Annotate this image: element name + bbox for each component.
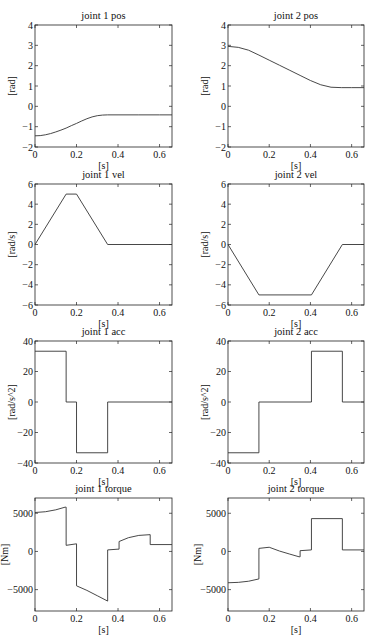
- subplot-j1acc: 00.20.40.6−40−2002040joint 1 acc[s][rad/…: [6, 326, 172, 487]
- data-line: [228, 245, 364, 295]
- data-line: [228, 46, 364, 87]
- y-tick-label: 4: [28, 199, 33, 210]
- y-tick-label: 5000: [206, 508, 226, 519]
- subplot-j1vel: 00.20.40.6−6−4−20246joint 1 vel[s][rad/s…: [6, 169, 172, 329]
- subplot-j1pos: 00.20.40.6−2−101234joint 1 pos[s][rad]: [6, 10, 172, 171]
- subplot-title: joint 1 pos: [80, 10, 125, 21]
- y-tick-label: −2: [22, 259, 33, 270]
- y-tick-label: 20: [216, 366, 226, 377]
- y-tick-label: 2: [28, 60, 33, 71]
- data-line: [35, 351, 172, 453]
- subplot-title: joint 2 torque: [267, 483, 325, 494]
- y-tick-label: 4: [221, 199, 226, 210]
- x-tick-label: 0: [33, 465, 38, 476]
- x-tick-label: 0.6: [345, 613, 358, 624]
- x-tick-label: 0.2: [263, 149, 276, 160]
- y-tick-label: 2: [221, 219, 226, 230]
- y-tick-label: −20: [210, 427, 226, 438]
- x-tick-label: 0.4: [112, 613, 125, 624]
- y-tick-label: 4: [28, 20, 33, 31]
- y-axis-label: [rad/s]: [6, 231, 17, 257]
- x-tick-label: 0: [226, 613, 231, 624]
- y-tick-label: −6: [22, 300, 33, 311]
- y-tick-label: 0: [28, 239, 33, 250]
- y-tick-label: 0: [28, 546, 33, 557]
- y-tick-label: −1: [215, 121, 226, 132]
- y-tick-label: −1: [22, 121, 33, 132]
- x-tick-label: 0.4: [304, 613, 317, 624]
- y-tick-label: −5000: [200, 584, 226, 595]
- x-tick-label: 0.2: [70, 465, 83, 476]
- axes-box: [35, 25, 172, 147]
- y-tick-label: 4: [221, 20, 226, 31]
- x-tick-label: 0.4: [112, 149, 125, 160]
- y-tick-label: 0: [221, 101, 226, 112]
- y-tick-label: −4: [215, 279, 226, 290]
- subplot-j2pos: 00.20.40.6−2−101234joint 2 pos[s][rad]: [199, 10, 364, 171]
- x-tick-label: 0.6: [345, 307, 358, 318]
- y-tick-label: 0: [28, 101, 33, 112]
- y-tick-label: 3: [221, 40, 226, 51]
- y-tick-label: −2: [215, 142, 226, 153]
- subplot-j2torque: 00.20.40.6−500005000joint 2 torque[s][Nm…: [192, 483, 364, 635]
- data-line: [35, 115, 172, 136]
- y-tick-label: 40: [23, 336, 33, 347]
- y-axis-label: [rad/s^2]: [199, 384, 210, 420]
- y-tick-label: −40: [17, 458, 33, 469]
- data-line: [228, 351, 364, 453]
- y-tick-label: 5000: [13, 508, 33, 519]
- x-tick-label: 0: [226, 465, 231, 476]
- y-tick-label: 1: [28, 81, 33, 92]
- subplot-title: joint 2 pos: [273, 10, 318, 21]
- y-tick-label: −40: [210, 458, 226, 469]
- x-tick-label: 0.4: [304, 307, 317, 318]
- x-tick-label: 0.4: [304, 149, 317, 160]
- axes-box: [228, 25, 364, 147]
- subplot-title: joint 1 vel: [81, 169, 125, 180]
- y-axis-label: [rad/s]: [199, 231, 210, 257]
- y-tick-label: −5000: [7, 584, 33, 595]
- y-tick-label: 6: [221, 179, 226, 190]
- x-tick-label: 0: [226, 149, 231, 160]
- y-axis-label: [rad]: [6, 76, 17, 95]
- x-tick-label: 0: [33, 307, 38, 318]
- y-tick-label: −20: [17, 427, 33, 438]
- y-tick-label: 2: [221, 60, 226, 71]
- y-tick-label: 1: [221, 81, 226, 92]
- x-tick-label: 0: [226, 307, 231, 318]
- x-tick-label: 0.4: [112, 465, 125, 476]
- x-axis-label: [s]: [98, 624, 109, 635]
- x-tick-label: 0.2: [263, 613, 276, 624]
- y-tick-label: 3: [28, 40, 33, 51]
- subplot-j1torque: 00.20.40.6−500005000joint 1 torque[s][Nm…: [0, 483, 172, 635]
- x-tick-label: 0.6: [153, 613, 166, 624]
- y-tick-label: 2: [28, 219, 33, 230]
- x-tick-label: 0.2: [263, 307, 276, 318]
- subplot-title: joint 2 acc: [273, 326, 318, 337]
- y-axis-label: [Nm]: [0, 544, 10, 566]
- data-line: [35, 507, 172, 601]
- y-tick-label: 0: [221, 397, 226, 408]
- y-tick-label: −2: [22, 142, 33, 153]
- x-tick-label: 0.2: [263, 465, 276, 476]
- y-tick-label: 0: [221, 546, 226, 557]
- x-tick-label: 0.2: [70, 149, 83, 160]
- y-tick-label: 0: [221, 239, 226, 250]
- y-tick-label: 40: [216, 336, 226, 347]
- y-tick-label: 0: [28, 397, 33, 408]
- x-tick-label: 0.6: [345, 465, 358, 476]
- y-tick-label: 20: [23, 366, 33, 377]
- subplot-j2acc: 00.20.40.6−40−2002040joint 2 acc[s][rad/…: [199, 326, 364, 487]
- subplot-title: joint 1 acc: [81, 326, 126, 337]
- data-line: [35, 194, 172, 244]
- x-tick-label: 0.4: [304, 465, 317, 476]
- y-tick-label: −4: [22, 279, 33, 290]
- y-tick-label: −6: [215, 300, 226, 311]
- subplot-title: joint 2 vel: [274, 169, 318, 180]
- data-line: [228, 519, 364, 583]
- x-tick-label: 0: [33, 613, 38, 624]
- x-tick-label: 0.2: [70, 613, 83, 624]
- x-axis-label: [s]: [291, 624, 302, 635]
- x-tick-label: 0.6: [345, 149, 358, 160]
- axes-box: [228, 498, 364, 611]
